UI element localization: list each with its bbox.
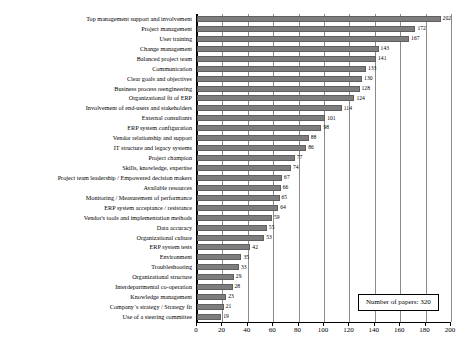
bar-value-label: 143 xyxy=(381,46,389,52)
category-label: Organizational structure xyxy=(132,274,192,280)
bar-value-label: 130 xyxy=(364,76,372,82)
category-label: Monitoring / Measurement of performance xyxy=(86,195,192,201)
bar xyxy=(197,66,366,72)
category-label: Knowledge management xyxy=(130,294,192,300)
bar-series: 2021721671431411331301281241141019888867… xyxy=(197,14,451,322)
category-axis-labels: Top management support and involvementPr… xyxy=(0,14,194,322)
bar xyxy=(197,225,267,231)
bar-value-label: 124 xyxy=(356,96,364,102)
category-label: Vendor relationship and support xyxy=(113,135,192,141)
bar-row: 33 xyxy=(197,262,451,272)
bar-value-label: 101 xyxy=(327,116,335,122)
bar-value-label: 65 xyxy=(282,195,288,201)
x-tick-label-200: 200 xyxy=(445,327,456,334)
bar xyxy=(197,264,239,270)
plot-area: 2021721671431411331301281241141019888867… xyxy=(196,14,451,322)
bar xyxy=(197,185,281,191)
bar-row: 202 xyxy=(197,14,451,24)
bar-row: 19 xyxy=(197,312,451,322)
x-tick-label-120: 120 xyxy=(343,327,354,334)
bar xyxy=(197,46,379,52)
category-label: ERP system configuration xyxy=(127,125,192,131)
bar-row: 28 xyxy=(197,282,451,292)
bar xyxy=(197,205,278,211)
category-label: Change management xyxy=(140,46,192,52)
bar xyxy=(197,244,250,250)
bar-chart: Top management support and involvementPr… xyxy=(0,0,471,354)
category-label: Skills, knowledge, expertise xyxy=(122,165,192,171)
bar-value-label: 19 xyxy=(223,314,229,320)
bar-value-label: 67 xyxy=(284,175,290,181)
bar-row: 130 xyxy=(197,74,451,84)
bar-value-label: 128 xyxy=(362,86,370,92)
bar-row: 86 xyxy=(197,143,451,153)
bar-value-label: 59 xyxy=(274,215,280,221)
bar-row: 59 xyxy=(197,213,451,223)
x-tick-label-60: 60 xyxy=(269,327,276,334)
bar-row: 55 xyxy=(197,223,451,233)
category-label: Troubleshooting xyxy=(151,264,192,270)
bar-row: 167 xyxy=(197,34,451,44)
category-label: Use of a steering committee xyxy=(123,314,192,320)
bar xyxy=(197,314,221,320)
bar-row: 124 xyxy=(197,93,451,103)
bar xyxy=(197,195,280,201)
bar-row: 53 xyxy=(197,233,451,243)
category-label: Clear goals and objectives xyxy=(127,75,192,81)
bar-row: 64 xyxy=(197,203,451,213)
x-tick-label-20: 20 xyxy=(218,327,225,334)
bar-value-label: 114 xyxy=(344,106,352,112)
category-label: Communication xyxy=(152,66,192,72)
bar-row: 66 xyxy=(197,183,451,193)
bar-value-label: 23 xyxy=(228,294,234,300)
bar-row: 35 xyxy=(197,252,451,262)
bar-value-label: 202 xyxy=(443,16,451,22)
category-label: Balanced project team xyxy=(137,56,192,62)
bar-value-label: 172 xyxy=(417,26,425,32)
bar xyxy=(197,76,362,82)
bar xyxy=(197,145,306,151)
bar xyxy=(197,235,264,241)
category-label: Top management support and involvement xyxy=(86,16,192,22)
category-label: External consultants xyxy=(142,115,192,121)
bar xyxy=(197,56,376,62)
bar-row: 74 xyxy=(197,163,451,173)
bar xyxy=(197,125,321,131)
category-label: ERP system acceptance / resistance xyxy=(104,205,192,211)
bar xyxy=(197,165,291,171)
bar xyxy=(197,86,360,92)
x-tick-label-0: 0 xyxy=(194,327,198,334)
bar-value-label: 77 xyxy=(297,155,303,161)
x-tick-label-160: 160 xyxy=(394,327,405,334)
bar-row: 77 xyxy=(197,153,451,163)
bar-row: 88 xyxy=(197,133,451,143)
category-label: IT structure and legacy systems xyxy=(114,145,192,151)
bar xyxy=(197,215,272,221)
bar-row: 133 xyxy=(197,64,451,74)
category-label: Interdepartmental co-operation xyxy=(115,284,192,290)
bar-value-label: 86 xyxy=(308,145,314,151)
bar-value-label: 88 xyxy=(311,135,317,141)
x-tick-label-80: 80 xyxy=(294,327,301,334)
category-label: User training xyxy=(160,36,192,42)
bar-row: 101 xyxy=(197,113,451,123)
bar-value-label: 33 xyxy=(241,265,247,271)
gridline-200 xyxy=(451,14,452,322)
bar-value-label: 167 xyxy=(411,36,419,42)
bar-value-label: 98 xyxy=(323,125,329,131)
bar-value-label: 133 xyxy=(368,66,376,72)
x-tick-label-140: 140 xyxy=(369,327,380,334)
x-tick-label-180: 180 xyxy=(419,327,430,334)
bar-value-label: 42 xyxy=(252,245,258,251)
category-label: Vendor's tools and implementation method… xyxy=(84,215,192,221)
bar-value-label: 29 xyxy=(236,274,242,280)
bar-row: 29 xyxy=(197,272,451,282)
category-label: ERP system tests xyxy=(150,244,192,250)
category-label: Project champion xyxy=(149,155,192,161)
bar xyxy=(197,254,241,260)
bar-value-label: 35 xyxy=(243,255,249,261)
bar-row: 172 xyxy=(197,24,451,34)
bar xyxy=(197,274,234,280)
x-tick-label-100: 100 xyxy=(318,327,329,334)
category-label: Involvement of end-users and stakeholder… xyxy=(86,105,192,111)
